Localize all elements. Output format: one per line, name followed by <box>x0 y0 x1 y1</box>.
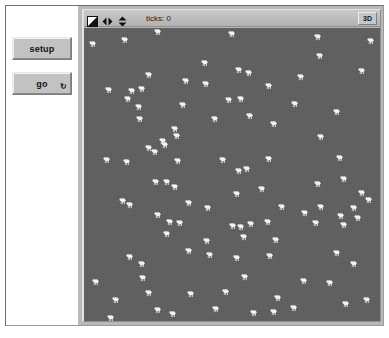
agent-turtle <box>154 306 162 314</box>
agent-turtle <box>182 77 190 85</box>
agent-turtle <box>358 67 366 75</box>
agent-turtle <box>290 304 298 312</box>
agent-turtle <box>235 66 243 74</box>
agent-turtle <box>228 30 236 38</box>
agent-turtle <box>139 274 147 282</box>
agent-turtle <box>266 252 274 260</box>
go-button-label: go <box>36 79 47 89</box>
agent-turtle <box>169 310 177 318</box>
agent-turtle <box>103 156 111 164</box>
agent-turtle <box>278 203 286 211</box>
agent-turtle <box>350 260 358 268</box>
agent-turtle <box>107 314 115 321</box>
forever-loop-icon: ↻ <box>60 83 68 91</box>
agent-turtle <box>354 214 362 222</box>
agent-turtle <box>265 155 273 163</box>
agent-turtle <box>173 132 181 140</box>
vertical-resize-arrows-icon[interactable] <box>117 13 128 24</box>
agent-turtle <box>258 185 266 193</box>
view-toolbar: ticks: 0 3D <box>84 10 380 27</box>
agent-turtle <box>300 277 308 285</box>
agent-turtle <box>203 237 211 245</box>
agent-turtle <box>89 40 97 48</box>
agent-turtle <box>326 279 334 287</box>
agent-turtle <box>204 204 212 212</box>
draw-split-square-icon[interactable] <box>87 13 98 24</box>
agent-turtle <box>179 101 187 109</box>
agent-turtle <box>154 28 162 36</box>
agent-turtle <box>342 300 350 308</box>
agent-turtle <box>201 59 209 67</box>
three-d-button-label: 3D <box>363 15 372 22</box>
agent-turtle <box>274 294 282 302</box>
agent-turtle <box>112 296 120 304</box>
agent-turtle <box>161 141 169 149</box>
agent-turtle <box>171 183 179 191</box>
agent-turtle <box>301 209 309 217</box>
agent-turtle <box>138 85 146 93</box>
agent-turtle <box>211 115 219 123</box>
horizontal-resize-arrows-icon[interactable] <box>102 13 113 24</box>
agent-turtle <box>246 112 254 120</box>
agent-turtle <box>243 165 251 173</box>
agent-turtle <box>92 278 100 286</box>
agent-turtle <box>212 305 220 313</box>
ticks-label: ticks: 0 <box>146 14 171 23</box>
agent-turtle <box>333 108 341 116</box>
agent-turtle <box>187 290 195 298</box>
agent-turtle <box>314 33 322 41</box>
agent-turtle <box>126 253 134 261</box>
agent-turtle <box>265 82 273 90</box>
agent-turtle <box>126 201 134 209</box>
three-d-button[interactable]: 3D <box>358 12 377 25</box>
agent-turtle <box>365 196 373 204</box>
agent-turtle <box>136 115 144 123</box>
setup-button[interactable]: setup <box>12 37 72 60</box>
agent-turtle <box>176 219 184 227</box>
agent-turtle <box>340 221 348 229</box>
agent-turtle <box>206 251 214 259</box>
agent-turtle <box>233 254 241 262</box>
agent-turtle <box>225 96 233 104</box>
agent-turtle <box>166 218 174 226</box>
agent-turtle <box>241 273 249 281</box>
agent-turtle <box>336 154 344 162</box>
agent-turtle <box>233 190 241 198</box>
agent-turtle <box>317 133 325 141</box>
agent-turtle <box>121 36 129 44</box>
agent-turtle <box>317 203 325 211</box>
agent-turtle <box>297 73 305 81</box>
world-view-frame: ticks: 0 3D <box>82 9 381 322</box>
agent-turtle <box>151 148 159 156</box>
agent-turtle <box>270 120 278 128</box>
world-canvas[interactable] <box>84 28 380 321</box>
agent-turtle <box>202 80 210 88</box>
agent-turtle <box>291 100 299 108</box>
agent-turtle <box>105 86 113 94</box>
agent-turtle <box>340 175 348 183</box>
world-view-panel: ticks: 0 3D <box>78 6 383 325</box>
agent-turtle <box>123 158 131 166</box>
agent-turtle <box>250 309 258 317</box>
agent-turtle <box>240 233 248 241</box>
agent-turtle <box>245 69 253 77</box>
agent-turtle <box>124 95 132 103</box>
agent-turtle <box>237 95 245 103</box>
agent-turtle <box>337 212 345 220</box>
agent-turtle <box>163 230 171 238</box>
agent-turtle <box>222 288 230 296</box>
go-button[interactable]: go ↻ <box>12 72 72 95</box>
control-panel: setup go ↻ <box>6 6 78 325</box>
agent-turtle <box>367 37 375 45</box>
agent-turtle <box>264 218 272 226</box>
agent-turtle <box>219 156 227 164</box>
netlogo-model-window: setup go ↻ <box>5 5 384 326</box>
agent-turtle <box>314 180 322 188</box>
agent-turtle <box>237 223 245 231</box>
agent-turtle <box>350 204 358 212</box>
agent-turtle <box>333 249 341 257</box>
agent-turtle <box>185 247 193 255</box>
agent-turtle <box>145 71 153 79</box>
agent-turtle <box>270 308 278 316</box>
agent-turtle <box>363 296 371 304</box>
